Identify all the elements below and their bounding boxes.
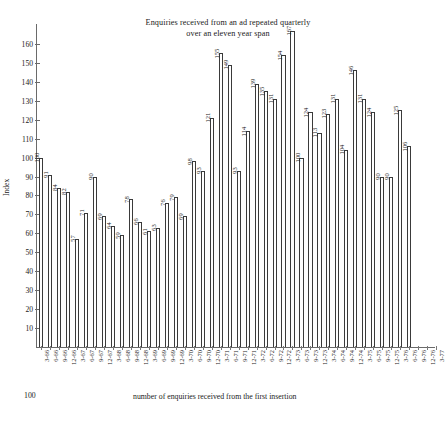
- bar[interactable]: 64: [111, 226, 115, 347]
- bar-value-label: 93: [232, 168, 239, 175]
- x-tick-label: 9-75: [385, 350, 391, 362]
- y-tick-label: 140: [22, 77, 33, 86]
- bar[interactable]: 76: [165, 203, 169, 347]
- bar[interactable]: 135: [264, 91, 268, 347]
- bar[interactable]: 63: [156, 228, 160, 347]
- bar[interactable]: 124: [371, 112, 375, 347]
- x-tick-mark: [77, 346, 78, 350]
- bar-value-label: 121: [205, 113, 212, 123]
- x-tick-label: 9-67: [98, 350, 104, 362]
- bar-value-label: 100: [295, 153, 302, 163]
- bar-value-label: 91: [43, 171, 50, 178]
- bar[interactable]: 93: [201, 171, 205, 347]
- x-tick-label: 9-68: [134, 350, 140, 362]
- bar-value-label: 124: [367, 107, 374, 117]
- bar-series: 1009184825771906964597866616376796998931…: [37, 24, 435, 347]
- bar[interactable]: 93: [237, 171, 241, 347]
- bar[interactable]: 66: [138, 222, 142, 347]
- x-tick-label: 3-72: [260, 350, 266, 362]
- x-tick-mark: [50, 346, 51, 350]
- x-tick-label: 6-75: [376, 350, 382, 362]
- x-tick-mark: [95, 346, 96, 350]
- x-tick-mark: [113, 346, 114, 350]
- bar[interactable]: 149: [228, 65, 232, 347]
- bar[interactable]: 131: [362, 99, 366, 347]
- bar[interactable]: 61: [147, 231, 151, 347]
- bar[interactable]: 106: [407, 146, 411, 347]
- y-tick-label: 130: [22, 96, 33, 105]
- bar-value-label: 155: [214, 48, 221, 58]
- bar-value-label: 93: [196, 168, 203, 175]
- x-tick-label: 6-76: [412, 350, 418, 362]
- bar-value-label: 114: [241, 126, 248, 136]
- x-tick-label: 12-76: [430, 350, 436, 365]
- bar[interactable]: 124: [308, 112, 312, 347]
- y-tick-label: 90: [25, 172, 33, 181]
- bar[interactable]: 90: [380, 177, 384, 347]
- bar-value-label: 131: [331, 94, 338, 104]
- x-tick-label: 3-73: [295, 350, 301, 362]
- y-tick-label: 60: [25, 229, 33, 238]
- bar[interactable]: 91: [48, 175, 52, 347]
- x-tick-label: 9-71: [242, 350, 248, 362]
- bar[interactable]: 131: [335, 99, 339, 347]
- x-tick-label: 6-74: [340, 350, 346, 362]
- bar[interactable]: 69: [183, 216, 187, 347]
- bar-value-label: 82: [61, 188, 68, 195]
- bar-value-label: 66: [133, 219, 140, 226]
- bar[interactable]: 121: [210, 118, 214, 347]
- x-tick-mark: [158, 346, 159, 350]
- x-tick-label: 12-69: [179, 350, 185, 365]
- bar[interactable]: 113: [317, 133, 321, 347]
- bar[interactable]: 131: [273, 99, 277, 347]
- x-tick-label: 9-66: [62, 350, 68, 362]
- bar[interactable]: 69: [102, 216, 106, 347]
- y-tick-label: 50: [25, 248, 33, 257]
- x-tick-label: 12-68: [143, 350, 149, 365]
- bar-value-label: 167: [286, 26, 293, 36]
- bar[interactable]: 57: [75, 239, 79, 347]
- bar[interactable]: 114: [246, 131, 250, 347]
- y-axis-title: Index: [2, 179, 11, 196]
- bar[interactable]: 90: [389, 177, 393, 347]
- bar[interactable]: 82: [66, 192, 70, 347]
- x-tick-mark: [203, 346, 204, 350]
- bar[interactable]: 100: [39, 158, 43, 347]
- x-tick-mark: [68, 346, 69, 350]
- bar-value-label: 57: [70, 236, 77, 243]
- bar[interactable]: 90: [93, 177, 97, 347]
- x-tick-label: 12-66: [71, 350, 77, 365]
- x-tick-label: 9-73: [313, 350, 319, 362]
- bar[interactable]: 98: [192, 161, 196, 347]
- x-tick-mark: [212, 346, 213, 350]
- x-tick-mark: [104, 346, 105, 350]
- bar[interactable]: 167: [290, 31, 294, 347]
- x-tick-label: 6-73: [304, 350, 310, 362]
- y-tick-label: 100: [22, 153, 33, 162]
- bar[interactable]: 100: [299, 158, 303, 347]
- bar[interactable]: 59: [120, 235, 124, 347]
- bar-value-label: 131: [268, 94, 275, 104]
- x-tick-mark: [131, 346, 132, 350]
- bar-value-label: 149: [223, 60, 230, 70]
- bar[interactable]: 104: [344, 150, 348, 347]
- x-tick-label: 12-67: [107, 350, 113, 365]
- y-tick-label: 150: [22, 58, 33, 67]
- bar-value-label: 104: [340, 145, 347, 155]
- bar[interactable]: 123: [326, 114, 330, 347]
- x-tick-mark: [275, 346, 276, 350]
- bar[interactable]: 139: [255, 84, 259, 347]
- x-tick-label: 6-72: [269, 350, 275, 362]
- x-tick-label: 12-72: [286, 350, 292, 365]
- bar[interactable]: 71: [84, 213, 88, 347]
- bar[interactable]: 154: [281, 55, 285, 347]
- x-tick-mark: [41, 346, 42, 350]
- x-tick-mark: [86, 346, 87, 350]
- x-tick-mark: [176, 346, 177, 350]
- bar[interactable]: 146: [353, 70, 357, 347]
- bar-value-label: 98: [187, 158, 194, 165]
- bar[interactable]: 84: [57, 188, 61, 347]
- bar[interactable]: 155: [219, 53, 223, 347]
- bar-value-label: 100: [34, 153, 41, 163]
- bar-value-label: 90: [376, 173, 383, 180]
